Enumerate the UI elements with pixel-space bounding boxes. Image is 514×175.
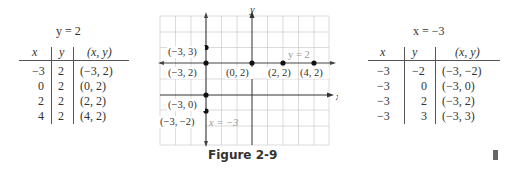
horizontal-line-label: y = 2 — [288, 49, 310, 60]
table-cell: (−3, −2) — [442, 64, 482, 79]
column-divider — [404, 47, 405, 124]
point-label: (2, 2) — [268, 67, 291, 79]
column-divider — [51, 47, 52, 124]
table-cell: (−3, 3) — [442, 109, 475, 124]
table-cell: −3 — [377, 109, 390, 124]
table-cell: 3 — [421, 109, 427, 124]
table-cell: (4, 2) — [80, 109, 106, 124]
table-cell: (−3, 0) — [442, 79, 475, 94]
table-cell: (2, 2) — [80, 94, 106, 109]
right-table-title: x = −3 — [413, 24, 445, 39]
header-xy: (x, y) — [87, 45, 112, 60]
table-cell: 4 — [38, 109, 44, 124]
table-cell: (−3, 2) — [442, 94, 475, 109]
table-cell: −3 — [377, 64, 390, 79]
header-y: y — [59, 45, 64, 60]
figure-caption: Figure 2-9 — [208, 148, 277, 162]
column-divider — [73, 47, 74, 124]
table-cell: 0 — [421, 79, 427, 94]
coordinate-graph: (−3, 3) (−3, 2) (0, 2) (2, 2) (4, 2) (−3… — [158, 8, 338, 148]
table-cell: 2 — [58, 64, 64, 79]
header-y: y — [412, 45, 417, 60]
point-label: (0, 2) — [226, 67, 249, 79]
point-label: (−3, 2) — [168, 67, 197, 79]
table-cell: 0 — [38, 79, 44, 94]
left-table-title: y = 2 — [56, 24, 81, 39]
table-cell: (0, 2) — [80, 79, 106, 94]
point-label: (−3, 3) — [168, 46, 197, 58]
header-xy: (x, y) — [455, 45, 480, 60]
table-cell: (−3, 2) — [80, 64, 113, 79]
table-cell: 2 — [58, 109, 64, 124]
table-cell: −2 — [412, 64, 425, 79]
vertical-line-label: x = −3 — [208, 117, 238, 128]
page-marker — [493, 150, 498, 160]
x-axis-label: x — [335, 91, 338, 102]
table-cell: −3 — [377, 94, 390, 109]
table-cell: −3 — [32, 64, 45, 79]
point-label: (−3, 0) — [168, 99, 197, 111]
table-cell: 2 — [38, 94, 44, 109]
header-rule — [368, 60, 500, 61]
y-axis-label: y — [249, 8, 255, 15]
table-cell: 2 — [58, 79, 64, 94]
header-x: x — [380, 45, 385, 60]
table-cell: 2 — [421, 94, 427, 109]
table-cell: −3 — [377, 79, 390, 94]
header-rule — [19, 60, 129, 61]
point-label: (4, 2) — [300, 67, 323, 79]
table-cell: 2 — [58, 94, 64, 109]
point-label: (−3, −2) — [160, 116, 195, 128]
header-x: x — [32, 45, 37, 60]
column-divider — [435, 47, 436, 124]
